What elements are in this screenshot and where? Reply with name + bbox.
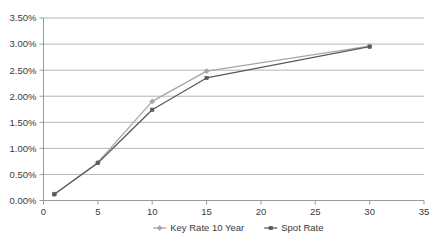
- data-point-marker: [205, 76, 208, 79]
- chart-canvas: 0.00%0.50%1.00%1.50%2.00%2.50%3.00%3.50%…: [0, 0, 444, 243]
- x-axis-tick-label: 0: [41, 206, 46, 217]
- data-point-marker: [96, 161, 99, 164]
- y-axis-tick-label: 0.50%: [10, 169, 37, 180]
- y-axis-tick-label: 0.00%: [10, 195, 37, 206]
- legend-label: Spot Rate: [281, 222, 323, 233]
- legend-marker-icon: [269, 226, 272, 229]
- data-point-marker: [368, 45, 371, 48]
- x-axis-tick-label: 35: [419, 206, 430, 217]
- x-axis-tick-label: 20: [256, 206, 267, 217]
- x-axis-tick-label: 30: [364, 206, 375, 217]
- y-axis-tick-label: 2.00%: [10, 91, 37, 102]
- chart-legend: Key Rate 10 YearSpot Rate: [153, 222, 323, 233]
- data-point-marker: [53, 193, 56, 196]
- x-axis-tick-label: 5: [95, 206, 100, 217]
- x-axis-tick-label: 10: [147, 206, 158, 217]
- x-axis-tick-label: 15: [201, 206, 212, 217]
- y-axis-tick-label: 1.50%: [10, 117, 37, 128]
- line-chart: 0.00%0.50%1.00%1.50%2.00%2.50%3.00%3.50%…: [0, 0, 444, 243]
- legend-label: Key Rate 10 Year: [170, 222, 244, 233]
- y-axis-tick-label: 1.00%: [10, 143, 37, 154]
- chart-background: [0, 0, 444, 243]
- y-axis-tick-label: 3.50%: [10, 12, 37, 23]
- x-axis-tick-label: 25: [310, 206, 321, 217]
- data-point-marker: [151, 108, 154, 111]
- y-axis-tick-label: 3.00%: [10, 38, 37, 49]
- y-axis-tick-label: 2.50%: [10, 65, 37, 76]
